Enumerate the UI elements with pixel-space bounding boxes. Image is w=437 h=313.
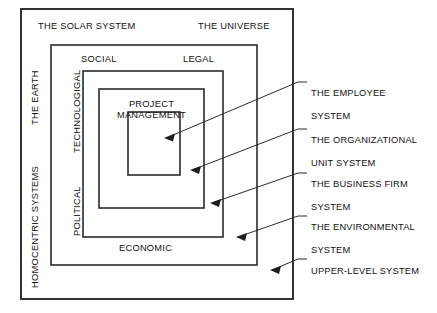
label-legal: LEGAL (183, 54, 214, 65)
label-political: POLITICAL (72, 186, 83, 236)
leader-organizational (190, 129, 307, 174)
callout-environmental-system-line1: THE ENVIRONMENTAL (311, 222, 415, 234)
label-economic: ECONOMIC (119, 243, 172, 254)
arrow-head-employee (164, 134, 175, 142)
callout-upper-level-system: UPPER-LEVEL SYSTEM (311, 254, 419, 289)
box-business-firm (83, 71, 223, 237)
diagram-canvas: THE SOLAR SYSTEM THE UNIVERSE SOCIAL LEG… (0, 0, 437, 313)
arrow-head-organizational (190, 166, 201, 174)
callout-organizational-unit-system-line1: THE ORGANIZATIONAL (311, 135, 417, 147)
label-homocentric-systems: HOMOCENTRIC SYSTEMS (30, 166, 41, 288)
callout-business-firm-system-line1: THE BUSINESS FIRM (311, 179, 408, 191)
leader-upper (270, 259, 307, 274)
callout-upper-level-system-line1: UPPER-LEVEL SYSTEM (311, 266, 419, 278)
box-upper-level-system (21, 9, 293, 299)
leader-environmental (236, 216, 307, 241)
label-project-management-line2: MANAGEMENT (99, 110, 204, 121)
label-technological: TECHNOLOGIGAL (72, 70, 83, 153)
arrow-head-business (210, 199, 221, 207)
arrow-head-environmental (236, 233, 247, 241)
box-employee-core (128, 112, 180, 175)
callout-employee-system-line2: SYSTEM (311, 111, 386, 123)
label-project-management-line1: PROJECT (99, 99, 204, 110)
arrow-head-upper (270, 266, 281, 274)
label-solar-system: THE SOLAR SYSTEM (38, 21, 136, 32)
label-social: SOCIAL (81, 54, 117, 65)
callout-employee-system-line1: THE EMPLOYEE (311, 88, 386, 100)
label-the-earth: THE EARTH (30, 70, 41, 125)
label-universe: THE UNIVERSE (198, 21, 270, 32)
